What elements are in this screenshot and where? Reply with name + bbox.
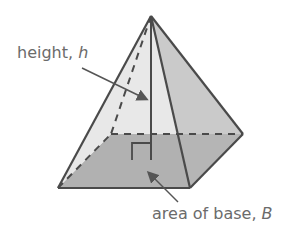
- base-area-label: area of base, B: [152, 206, 273, 222]
- height-label-text: height,: [17, 43, 78, 62]
- pyramid-figure: [0, 0, 291, 230]
- height-label: height, h: [17, 45, 88, 61]
- base-variable: B: [262, 204, 273, 223]
- pyramid-diagram: height, h area of base, B: [0, 0, 291, 230]
- base-label-text: area of base,: [152, 204, 262, 223]
- height-variable: h: [78, 43, 88, 62]
